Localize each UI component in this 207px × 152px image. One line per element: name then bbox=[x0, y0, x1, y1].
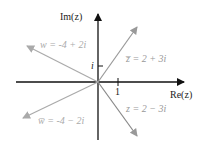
y-tick-label: i bbox=[91, 60, 94, 71]
complex-plane-diagram: Im(z) Re(z) 1 i z̅ = 2 + 3i z = 2 − 3i w… bbox=[0, 0, 207, 152]
label-z-bar: z̅ = 2 + 3i bbox=[125, 53, 167, 64]
vector-w bbox=[27, 46, 98, 82]
x-axis-label: Re(z) bbox=[170, 89, 192, 101]
x-tick-label: 1 bbox=[115, 86, 120, 97]
y-axis-label: Im(z) bbox=[60, 11, 82, 23]
label-w-bar: w̅ = -4 − 2i bbox=[38, 115, 84, 126]
label-w: w = -4 + 2i bbox=[40, 39, 86, 50]
vector-w-bar bbox=[23, 82, 98, 118]
label-z: z = 2 − 3i bbox=[125, 103, 166, 114]
